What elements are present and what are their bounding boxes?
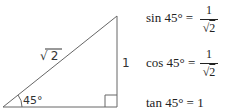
hyp-radicand: 2 [48,49,59,63]
cos-formula-lhs: cos 45° = [146,56,195,69]
sin-numerator: 1 [200,3,218,20]
sin-formula-lhs: sin 45° = [146,11,193,24]
angle-label: 45° [23,95,43,106]
hypotenuse-label: √2 [40,50,58,62]
cos-denominator: √2 [200,64,218,80]
opposite-label: 1 [122,57,130,69]
sin-den-radicand: 2 [209,21,215,35]
sin-formula-fraction: 1 √2 [200,3,218,36]
triangle-diagram [0,0,130,109]
hypotenuse-line [3,16,117,107]
cos-den-radicand: 2 [209,65,215,79]
tan-formula: tan 45° = 1 [146,96,204,109]
right-angle-marker [105,95,117,107]
angle-arc [18,95,22,107]
cos-formula-fraction: 1 √2 [200,47,218,80]
sin-denominator: √2 [200,20,218,36]
hyp-radical: √ [40,49,48,63]
cos-numerator: 1 [200,47,218,64]
